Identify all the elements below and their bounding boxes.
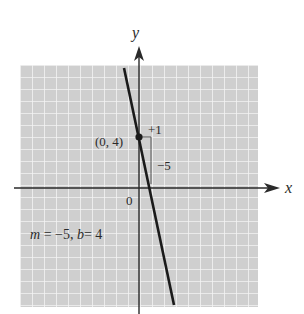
caption: m = −5, b= 4 [30,227,102,242]
caption-eq2: = 4 [84,227,102,242]
rise-label: −5 [157,158,171,173]
point-label: (0, 4) [95,134,123,149]
caption-b: b [77,227,84,242]
origin-label: 0 [126,193,133,208]
run-label: +1 [148,122,162,137]
x-axis-label: x [284,179,292,196]
y-intercept-point [135,133,142,140]
y-axis-label: y [130,24,140,42]
caption-eq1: = −5, [40,227,77,242]
slope-intercept-graph: y x 0 (0, 4) +1 −5 m = −5, b= 4 [0,0,304,314]
caption-m: m [30,227,40,242]
